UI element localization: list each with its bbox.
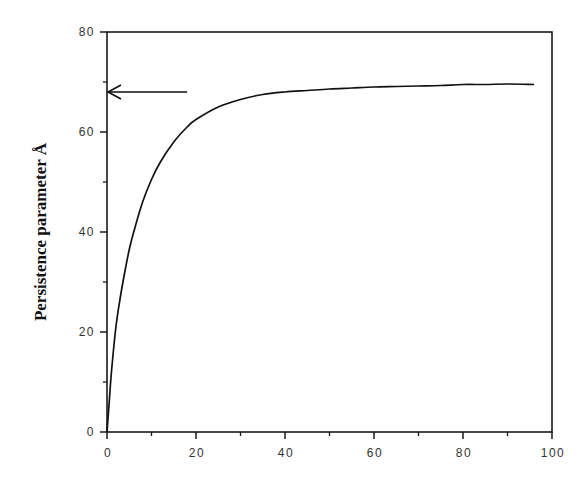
arrow-annotation — [108, 85, 187, 99]
y-tick-label: 0 — [87, 425, 95, 439]
x-tick-label: 100 — [541, 446, 566, 460]
x-tick-label: 0 — [104, 446, 112, 460]
y-axis-ticks: 020406080 — [79, 25, 107, 439]
x-tick-label: 60 — [367, 446, 383, 460]
y-axis-title: Persistence parameter Å — [31, 142, 50, 321]
data-line — [107, 84, 534, 432]
y-tick-label: 60 — [79, 125, 95, 139]
y-tick-label: 20 — [79, 325, 95, 339]
x-tick-label: 80 — [456, 446, 472, 460]
x-axis-ticks: 020406080100 — [104, 432, 565, 460]
y-tick-label: 40 — [79, 225, 95, 239]
x-tick-label: 20 — [189, 446, 205, 460]
x-tick-label: 40 — [278, 446, 294, 460]
y-tick-label: 80 — [79, 25, 95, 39]
chart: 020406080 020406080100 Persistence param… — [0, 0, 578, 490]
